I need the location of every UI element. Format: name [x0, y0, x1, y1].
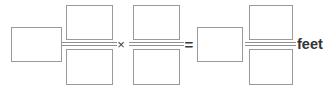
answer-box-term3-numerator[interactable]: [133, 5, 180, 40]
equation-container: × = feet: [0, 0, 335, 90]
equals-operator: =: [183, 37, 195, 52]
answer-box-term5-denominator[interactable]: [249, 49, 293, 85]
fraction-bar-term3: [129, 42, 184, 46]
fraction-bar-term2: [62, 42, 117, 46]
answer-box-term2-denominator[interactable]: [66, 49, 113, 85]
unit-label-feet: feet: [297, 37, 323, 52]
answer-box-term2-numerator[interactable]: [66, 5, 113, 40]
answer-box-term3-denominator[interactable]: [133, 49, 180, 85]
answer-box-term1[interactable]: [11, 27, 62, 62]
answer-box-term4[interactable]: [197, 27, 243, 62]
multiply-operator: ×: [115, 38, 127, 51]
fraction-bar-term5: [245, 42, 296, 46]
answer-box-term5-numerator[interactable]: [249, 5, 293, 40]
